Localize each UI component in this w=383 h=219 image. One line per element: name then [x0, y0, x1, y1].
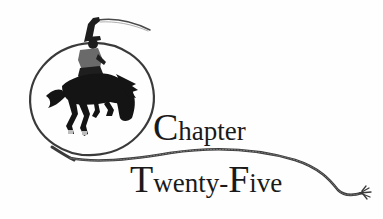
- cowboy-rider-icon: [78, 17, 106, 82]
- chapter-title-page: Chapter Twenty-Five: [0, 0, 383, 219]
- lariat-overhead-icon: [98, 19, 150, 31]
- bucking-horse-icon: [46, 74, 138, 137]
- heading-number-initial-f: F: [228, 158, 249, 200]
- frayed-rope-end-icon: [360, 186, 371, 199]
- heading-chapter-initial: C: [153, 106, 178, 148]
- heading-number-middle: wenty-: [153, 168, 228, 198]
- heading-chapter: Chapter: [153, 108, 246, 146]
- heading-chapter-rest: hapter: [178, 116, 245, 146]
- heading-chapter-number: Twenty-Five: [130, 160, 282, 198]
- heading-number-rest: ive: [249, 168, 282, 198]
- heading-number-initial-t: T: [130, 158, 153, 200]
